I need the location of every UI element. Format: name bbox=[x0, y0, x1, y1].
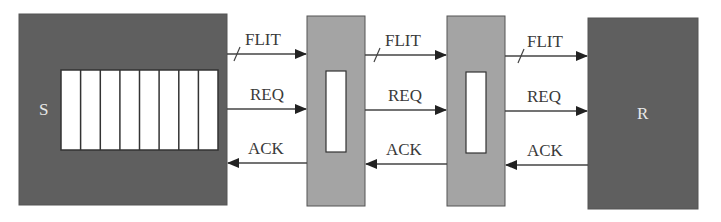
link-2: FLIT REQ ACK bbox=[365, 31, 447, 164]
pipeline-stage-2 bbox=[447, 16, 505, 206]
sender-label: S bbox=[39, 100, 48, 119]
ack-label: ACK bbox=[386, 140, 423, 159]
flit-label: FLIT bbox=[385, 31, 422, 50]
receiver-block: R bbox=[588, 18, 698, 209]
stage-2-register bbox=[466, 72, 486, 153]
ack-label: ACK bbox=[248, 139, 285, 158]
req-label: REQ bbox=[388, 86, 422, 105]
receiver-label: R bbox=[637, 104, 649, 123]
req-label: REQ bbox=[527, 87, 561, 106]
sender-buffer bbox=[61, 70, 218, 150]
sender-block: S bbox=[19, 14, 227, 205]
pipeline-stage-1 bbox=[307, 16, 365, 206]
stage-1-register bbox=[326, 71, 346, 152]
ack-label: ACK bbox=[527, 141, 564, 160]
flit-label: FLIT bbox=[245, 30, 282, 49]
link-1: FLIT REQ ACK bbox=[227, 30, 307, 163]
link-3: FLIT REQ ACK bbox=[505, 32, 588, 165]
flit-label: FLIT bbox=[527, 32, 564, 51]
pipeline-diagram: S R FLIT REQ ACK bbox=[0, 0, 721, 222]
req-label: REQ bbox=[250, 85, 284, 104]
